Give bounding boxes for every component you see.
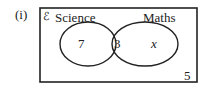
maths-circle <box>112 22 178 66</box>
set-label-maths: Maths <box>143 11 176 24</box>
region-intersection: 3 <box>114 37 121 50</box>
region-science-only: 7 <box>78 37 85 50</box>
set-label-science: Science <box>55 11 95 24</box>
region-maths-only: x <box>151 37 157 50</box>
universal-set-symbol: ℰ <box>43 11 50 22</box>
region-neither: 5 <box>184 69 191 82</box>
science-circle <box>60 22 116 66</box>
